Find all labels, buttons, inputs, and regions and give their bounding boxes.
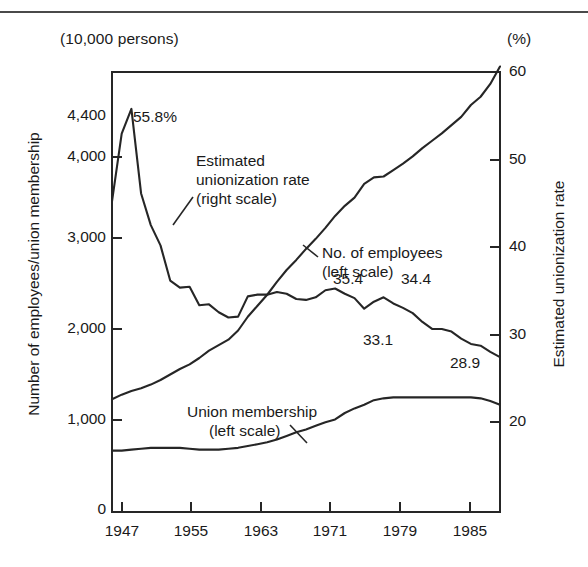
plot-frame — [112, 72, 500, 512]
callout-line-2: unionization rate — [196, 170, 310, 189]
right-axis-ticks — [490, 72, 500, 422]
chart-figure: (10,000 persons) (%) Number of employees… — [0, 0, 588, 567]
callout-line-3: (right scale) — [196, 189, 310, 208]
value-label-28-9: 28.9 — [450, 354, 480, 372]
callout-line-1: Estimated — [196, 151, 310, 170]
callout-line-1: Union membership — [187, 402, 317, 421]
plot-area — [0, 0, 588, 567]
callout-line-1: No. of employees — [322, 243, 443, 262]
unionization-rate-callout: Estimated unionization rate (right scale… — [196, 151, 310, 208]
membership-callout: Union membership (left scale) — [187, 402, 317, 440]
callout-line-2: (left scale) — [209, 421, 317, 440]
value-label-33-1: 33.1 — [363, 331, 393, 349]
value-label-35-4: 35.4 — [333, 270, 363, 288]
line-unionization-rate — [112, 109, 500, 357]
value-label-34-4: 34.4 — [401, 270, 431, 288]
peak-value-label: 55.8% — [133, 108, 177, 126]
x-axis-ticks — [122, 502, 470, 512]
